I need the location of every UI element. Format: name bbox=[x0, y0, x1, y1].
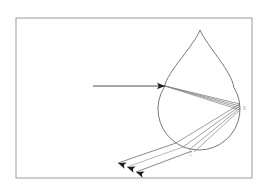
point-label-b: B bbox=[243, 106, 246, 111]
raindrop-refraction-figure: B C bbox=[0, 0, 268, 189]
figure-border bbox=[16, 18, 252, 178]
figure-canvas: B C bbox=[0, 0, 268, 189]
